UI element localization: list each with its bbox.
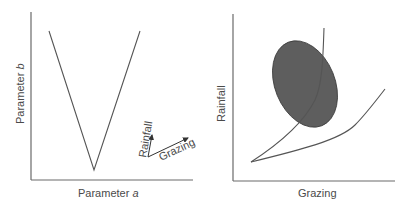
left-x-label: Parameter a [78, 187, 139, 199]
v-curve [49, 31, 140, 170]
inset-grazing-label: Grazing [157, 136, 197, 163]
left-y-label: Parameter b [14, 63, 26, 124]
right-y-label: Rainfall [215, 85, 227, 122]
inset-axes: Rainfall Grazing [136, 120, 197, 163]
ellipse-region [260, 31, 349, 137]
diagram-canvas: Parameter a Parameter b Rainfall Grazing… [0, 0, 403, 203]
right-panel: Grazing Rainfall [215, 14, 395, 199]
left-panel: Parameter a Parameter b Rainfall Grazing [14, 12, 197, 199]
right-x-label: Grazing [298, 187, 337, 199]
